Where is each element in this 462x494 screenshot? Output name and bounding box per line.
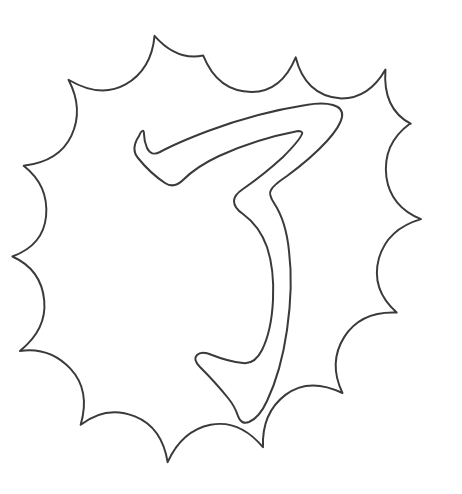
line-art-canvas [0, 0, 462, 494]
page-background [0, 0, 462, 494]
coloring-page-root: Black and white coloring page showing th… [0, 0, 462, 494]
